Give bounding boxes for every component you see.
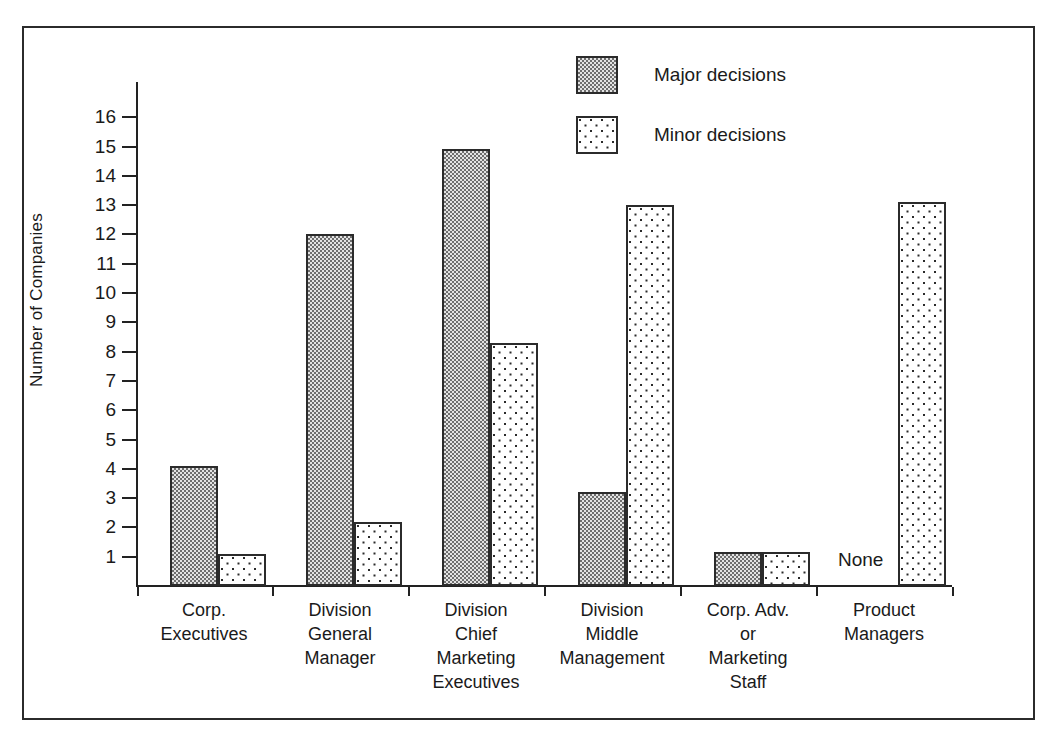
y-tick-label: 10 [64,283,116,302]
category-label-line: Executives [136,622,272,646]
category-label-line: Executives [408,670,544,694]
category-label-line: Managers [816,622,952,646]
bar-chart: Number of Companies 16151413121110987654… [0,0,1052,742]
y-tick-mark [122,351,137,353]
category-label-line: General [272,622,408,646]
category-label-line: Staff [680,670,816,694]
category-label-line: or [680,622,816,646]
category-label: DivisionMiddleManagement [544,598,680,670]
y-tick-mark [122,146,137,148]
x-tick-mark [408,587,410,596]
x-tick-mark [544,587,546,596]
category-label: Corp.Executives [136,598,272,646]
y-tick-mark [122,497,137,499]
y-tick-label-text: 15 [78,137,116,156]
category-label-line: Division [544,598,680,622]
x-tick-mark [680,587,682,596]
legend-swatch-major-icon [576,56,618,94]
bar-major [442,149,490,586]
bar-minor [490,343,538,586]
y-tick-label: 16 [64,107,116,126]
y-tick-mark [122,526,137,528]
y-tick-mark [122,439,137,441]
y-tick-label-text: 13 [78,195,116,214]
legend-label-major: Major decisions [654,64,786,86]
y-tick-label-text: 6 [78,400,116,419]
y-tick-label-text: 12 [78,224,116,243]
category-label-line: Product [816,598,952,622]
bar-major [306,234,354,586]
y-tick-label-text: 1 [78,547,116,566]
chart-legend: Major decisions Minor decisions [576,52,786,172]
category-label-line: Chief [408,622,544,646]
bar-minor [762,552,810,586]
legend-swatch-minor-icon [576,116,618,154]
y-axis-title: Number of Companies [27,200,47,400]
bar-minor [218,554,266,586]
x-tick-mark [137,587,139,596]
y-tick-label-text: 2 [78,517,116,536]
y-tick-label-text: 4 [78,459,116,478]
y-tick-label-text: 16 [78,107,116,126]
y-tick-label-text: 7 [78,371,116,390]
category-label-line: Division [408,598,544,622]
category-label: DivisionChiefMarketingExecutives [408,598,544,694]
y-tick-mark [122,556,137,558]
category-label-line: Manager [272,646,408,670]
y-tick-label: 13 [64,195,116,214]
category-label-line: Marketing [680,646,816,670]
y-tick-label-text: 10 [78,283,116,302]
y-axis-line [136,82,138,587]
category-label: DivisionGeneralManager [272,598,408,670]
bar-major [170,466,218,586]
category-label-line: Corp. Adv. [680,598,816,622]
y-tick-label-text: 8 [78,342,116,361]
y-tick-label: 12 [64,224,116,243]
y-tick-mark [122,263,137,265]
y-tick-mark [122,468,137,470]
y-tick-mark [122,233,137,235]
y-tick-label: 7 [64,371,116,390]
y-tick-label: 15 [64,137,116,156]
legend-label-minor: Minor decisions [654,124,786,146]
y-tick-mark [122,380,137,382]
y-tick-label: 3 [64,488,116,507]
category-label: ProductManagers [816,598,952,646]
y-tick-label-text: 14 [78,166,116,185]
category-label-line: Corp. [136,598,272,622]
y-tick-mark [122,116,137,118]
bar-minor [354,522,402,586]
y-tick-mark [122,409,137,411]
y-tick-label: 11 [64,254,116,273]
category-label-line: Division [272,598,408,622]
y-tick-label-text: 11 [78,254,116,273]
y-tick-label: 6 [64,400,116,419]
y-tick-label-text: 3 [78,488,116,507]
y-tick-mark [122,321,137,323]
x-tick-mark [816,587,818,596]
y-tick-label: 4 [64,459,116,478]
y-tick-mark [122,204,137,206]
none-annotation: None [838,550,883,569]
y-tick-mark [122,292,137,294]
legend-item-major: Major decisions [576,52,786,98]
category-label-line: Marketing [408,646,544,670]
category-label-line: Management [544,646,680,670]
y-tick-label: 1 [64,547,116,566]
y-tick-label: 14 [64,166,116,185]
y-tick-label-text: 9 [78,312,116,331]
y-tick-label: 8 [64,342,116,361]
y-tick-label: 5 [64,430,116,449]
y-tick-label-text: 5 [78,430,116,449]
bar-minor [626,205,674,586]
x-tick-mark [952,587,954,596]
bar-major [578,492,626,586]
x-tick-mark [272,587,274,596]
category-label: Corp. Adv.orMarketingStaff [680,598,816,694]
category-label-line: Middle [544,622,680,646]
bar-major [714,552,762,586]
y-tick-label: 2 [64,517,116,536]
bar-minor [898,202,946,586]
legend-item-minor: Minor decisions [576,112,786,158]
y-tick-mark [122,175,137,177]
